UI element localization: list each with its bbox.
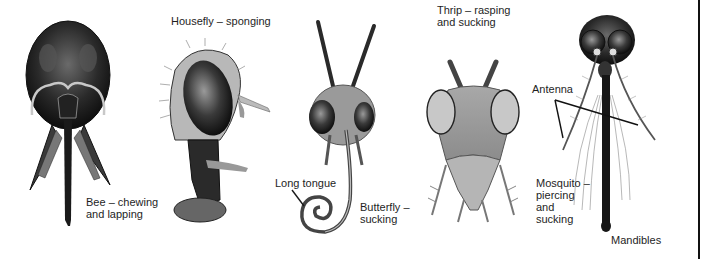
right-border-rule [698, 0, 700, 259]
housefly-label: Housefly – sponging [171, 15, 271, 27]
butterfly-label: Butterfly – sucking [360, 201, 410, 225]
bee-label: Bee – chewing and lapping [86, 196, 158, 220]
mosquito-label: Mosquito – piercing and sucking [536, 177, 590, 225]
illustration-canvas [0, 0, 708, 259]
thrip-label: Thrip – rasping and sucking [437, 4, 510, 28]
long-tongue-callout: Long tongue [275, 177, 336, 189]
thrip-head-icon [427, 62, 519, 222]
housefly-head-icon [159, 38, 270, 222]
insect-mouthparts-figure: Bee – chewing and lapping Housefly – spo… [0, 0, 708, 259]
antenna-callout: Antenna [532, 83, 573, 95]
mandibles-callout: Mandibles [611, 234, 661, 246]
